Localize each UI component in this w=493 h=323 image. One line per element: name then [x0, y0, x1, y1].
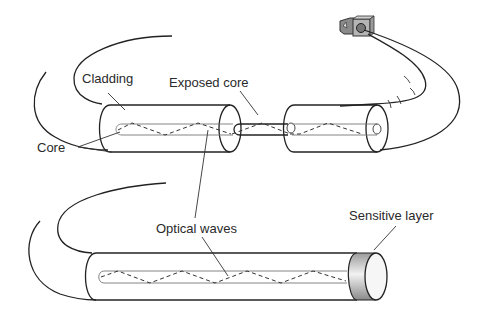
sensitive-layer-cap	[348, 253, 387, 300]
fiber-cable-lower	[29, 183, 166, 300]
diagram-drawing	[0, 0, 493, 323]
fiber-sensor-diagram: Cladding Exposed core Core Optical waves…	[0, 0, 493, 323]
label-sensitive-layer: Sensitive layer	[349, 209, 434, 222]
fiber-cable-upper-left	[34, 36, 172, 150]
sensing-fiber	[86, 253, 358, 300]
fiber-cable	[340, 30, 460, 150]
label-core: Core	[37, 141, 65, 154]
label-optical-waves: Optical waves	[156, 222, 237, 235]
cladding-segment-right	[284, 105, 389, 152]
leader-lines	[78, 91, 396, 276]
label-exposed-core: Exposed core	[169, 76, 249, 89]
connector-icon	[340, 16, 374, 36]
label-cladding: Cladding	[82, 72, 133, 85]
cladding-segment-left	[100, 105, 242, 152]
